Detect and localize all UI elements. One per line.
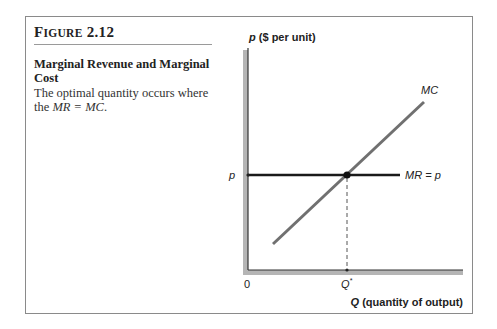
x-axis-label: Q (quantity of output): [351, 296, 464, 308]
q-star-tick-mark: [345, 268, 348, 271]
origin-label: 0: [244, 278, 250, 290]
y-axis-shadow: [243, 50, 248, 274]
chart-plot: p ($ per unit) MC MR = p p 0 Q* Q (quant…: [0, 0, 497, 329]
q-star-label: Q*: [341, 277, 353, 290]
p-tick-label: p: [228, 169, 235, 181]
mr-label: MR = p: [405, 169, 441, 181]
y-axis-label: p ($ per unit): [248, 31, 316, 43]
equilibrium-point: [343, 171, 350, 178]
x-axis-shadow: [243, 270, 463, 275]
p-tick-mark: [246, 173, 249, 176]
mc-label: MC: [421, 84, 438, 96]
